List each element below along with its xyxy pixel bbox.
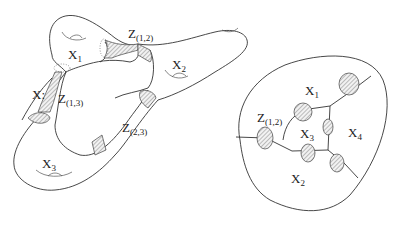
label-x2: X2 — [172, 57, 186, 74]
handle-x1 — [62, 32, 86, 40]
left-figure: X1 X2 X3 X: Z(1,2) Z(1,3) Z(2,3) — [14, 15, 248, 190]
intersection-disk-1 — [339, 73, 359, 95]
label-r-x4: X4 — [348, 125, 362, 142]
piece-x2-boundary — [138, 30, 247, 100]
intersection-z23-lower — [92, 135, 106, 155]
intersection-z13-disk — [28, 113, 50, 124]
intersection-z12-right — [138, 44, 152, 62]
label-r-x3: X3 — [300, 126, 314, 143]
intersection-disk-3 — [294, 103, 312, 121]
intersection-z12-left — [104, 40, 138, 58]
label-r-x1: X1 — [305, 83, 319, 100]
intersection-disk-6 — [330, 154, 344, 172]
label-r-z12: Z(1,2) — [257, 110, 282, 127]
intersection-disk-4 — [323, 119, 333, 135]
label-z13: Z(1,3) — [58, 91, 83, 108]
piece-x1-boundary — [50, 15, 139, 72]
label-z12: Z(1,2) — [128, 26, 153, 43]
label-x3: X3 — [42, 156, 56, 173]
diagram-canvas: X1 X2 X3 X: Z(1,2) Z(1,3) Z(2,3) X1 X2 X… — [0, 0, 399, 225]
intersection-disk-5 — [301, 144, 315, 162]
label-x1: X1 — [68, 47, 82, 64]
intersection-disk-z12 — [257, 127, 273, 149]
handle-x3-top — [48, 173, 62, 176]
label-space-x: X: — [32, 87, 45, 102]
label-r-x2: X2 — [291, 171, 305, 188]
right-figure: X1 X2 X3 X4 Z(1,2) — [236, 56, 387, 211]
label-z23: Z(2,3) — [122, 120, 147, 137]
handle-x1-top — [70, 35, 82, 38]
